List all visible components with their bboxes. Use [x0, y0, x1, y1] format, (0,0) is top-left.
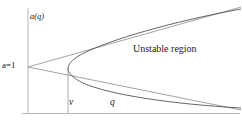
nu-tick-label: ν — [69, 98, 73, 108]
stability-diagram-figure: a(q) a=1 ν q Unstable region — [0, 0, 242, 125]
stability-boundary-curve — [68, 9, 241, 108]
lower-asymptote-line — [28, 67, 241, 110]
a-equals-one-label: a=1 — [2, 61, 16, 70]
y-axis-label: a(q) — [30, 12, 44, 21]
upper-asymptote-line — [28, 7, 241, 67]
q-axis-label: q — [110, 98, 115, 108]
unstable-region-label: Unstable region — [133, 44, 197, 54]
